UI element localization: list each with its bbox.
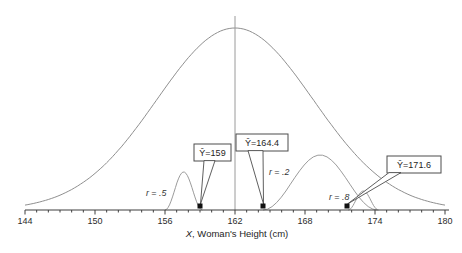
regression-to-mean-figure: 144150156162168174180 Ŷ=159 Ŷ=164.4 Ŷ=17…	[0, 0, 462, 253]
callout-tail	[348, 173, 402, 204]
callout-yhat-171-6: Ŷ=171.6	[348, 156, 442, 204]
x-tick-label: 174	[367, 216, 382, 226]
x-tick-label: 144	[17, 216, 32, 226]
callout-tail	[248, 151, 264, 204]
r-label-05: r = .5	[146, 188, 166, 198]
conditional-curve-group	[165, 155, 379, 210]
x-tick-label: 168	[297, 216, 312, 226]
x-tick-label: 150	[87, 216, 102, 226]
x-axis-title-rest: , Woman's Height (cm)	[192, 228, 288, 239]
conditional-curve	[263, 155, 377, 210]
callout-tail	[201, 161, 216, 204]
conditional-curve	[165, 172, 202, 210]
yhat-marker	[345, 204, 350, 209]
x-axis-title: X, Woman's Height (cm)	[185, 228, 288, 239]
yhat-marker	[261, 204, 266, 209]
callout-label: Ŷ=171.6	[397, 160, 431, 170]
r-label-08: r = .8	[329, 192, 349, 202]
x-tick-label: 162	[227, 216, 242, 226]
x-axis: 144150156162168174180	[17, 210, 452, 226]
r-label-02: r = .2	[269, 167, 289, 177]
x-tick-label: 156	[157, 216, 172, 226]
callout-label: Ŷ=159	[199, 148, 225, 158]
callout-label: Ŷ=164.4	[245, 138, 279, 148]
callout-yhat-159: Ŷ=159	[194, 144, 231, 204]
yhat-marker	[198, 204, 203, 209]
x-tick-label: 180	[437, 216, 452, 226]
